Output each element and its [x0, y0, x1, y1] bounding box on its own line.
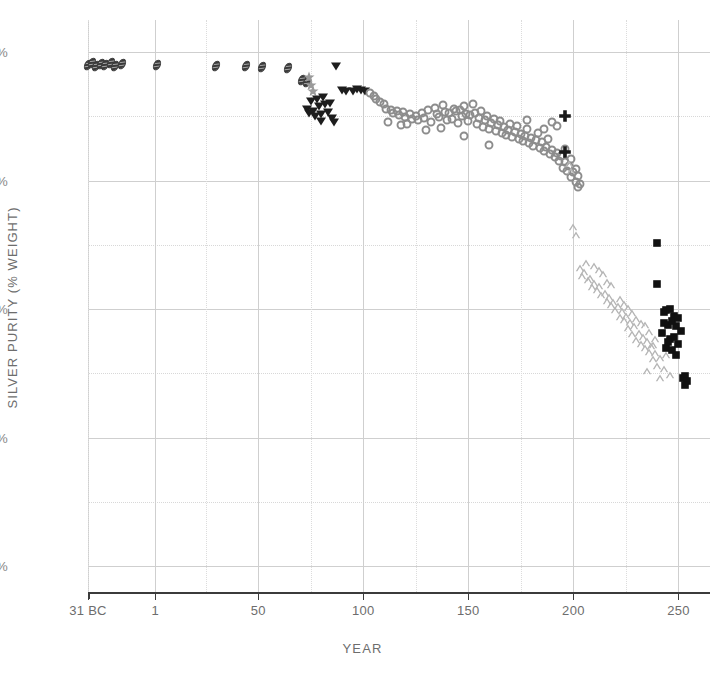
y-tick-label: 100%: [0, 45, 8, 60]
x-tick-label: 50: [251, 603, 266, 618]
data-point-marker: [668, 347, 684, 363]
x-tick-label: 250: [667, 603, 690, 618]
data-point-marker: [654, 325, 670, 341]
plot-area: [88, 20, 710, 592]
x-tick-label: 1: [151, 603, 159, 618]
data-point-marker: [656, 315, 672, 331]
x-tick-mark: [678, 592, 679, 600]
data-point-marker: [679, 373, 695, 389]
data-point-marker: [662, 301, 678, 317]
x-tick-label: 150: [457, 603, 480, 618]
data-point-marker: [675, 370, 691, 386]
x-axis-title: YEAR: [0, 641, 725, 656]
y-tick-label: 0%: [0, 559, 8, 574]
data-point-marker: [666, 308, 682, 324]
data-point-marker: [664, 313, 680, 329]
x-tick-label: 100: [352, 603, 375, 618]
y-axis-title: SILVER PURITY (% WEIGHT): [5, 73, 20, 543]
data-point-marker: [677, 377, 693, 393]
data-point-marker: [649, 235, 665, 251]
data-point-marker: [658, 340, 674, 356]
data-point-marker: [668, 318, 684, 334]
silver-purity-scatter-chart: 31 BC1501001502002500%25%50%75%100% YEAR…: [0, 0, 725, 681]
x-tick-mark: [573, 592, 574, 600]
x-tick-label: 200: [562, 603, 585, 618]
data-point-marker: [673, 323, 689, 339]
data-point-marker: [670, 336, 686, 352]
data-point-marker: [677, 368, 693, 384]
x-tick-mark: [363, 592, 364, 600]
x-tick-label: 31 BC: [69, 603, 107, 618]
data-point-marker: [664, 342, 680, 358]
data-point-marker: [656, 304, 672, 320]
data-point-marker: [666, 329, 682, 345]
series-layer: [88, 20, 710, 592]
x-tick-mark: [258, 592, 259, 600]
x-tick-mark: [468, 592, 469, 600]
data-point-marker: [649, 276, 665, 292]
x-tick-mark: [155, 592, 156, 600]
data-point-marker: [660, 334, 676, 350]
x-tick-mark: [88, 592, 89, 600]
data-point-marker: [658, 302, 674, 318]
data-point-marker: [670, 310, 686, 326]
x-axis-line: [88, 592, 710, 594]
data-point-marker: [662, 331, 678, 347]
data-point-marker: [660, 317, 676, 333]
